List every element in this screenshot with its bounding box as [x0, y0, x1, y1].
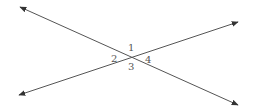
angle-label-3: 3 [128, 61, 134, 72]
angle-label-2: 2 [111, 53, 117, 64]
angle-label-1: 1 [128, 42, 134, 53]
line-b [19, 22, 238, 95]
line-a [20, 7, 238, 105]
angle-label-4: 4 [145, 54, 151, 65]
intersecting-lines-diagram: 1 2 3 4 [0, 0, 255, 111]
